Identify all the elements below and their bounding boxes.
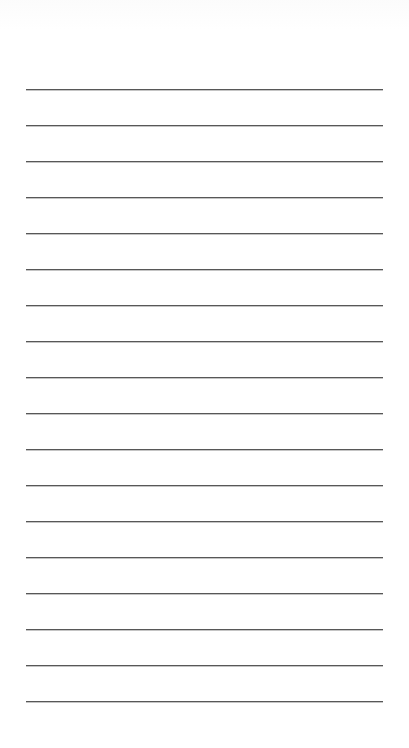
faint-bleed-through-area [0,0,409,30]
lined-paper-page [0,0,409,748]
ruled-line [26,521,383,522]
ruled-line [26,557,383,558]
ruled-line [26,161,383,162]
ruled-line [26,305,383,306]
ruled-line [26,197,383,198]
ruled-line [26,233,383,234]
ruled-line [26,89,383,90]
ruled-line [26,593,383,594]
ruled-line [26,629,383,630]
ruled-line [26,413,383,414]
ruled-line [26,485,383,486]
ruled-line [26,377,383,378]
ruled-line [26,125,383,126]
ruled-line [26,665,383,666]
ruled-line [26,449,383,450]
ruled-line [26,701,383,702]
ruled-line [26,269,383,270]
ruled-line [26,341,383,342]
